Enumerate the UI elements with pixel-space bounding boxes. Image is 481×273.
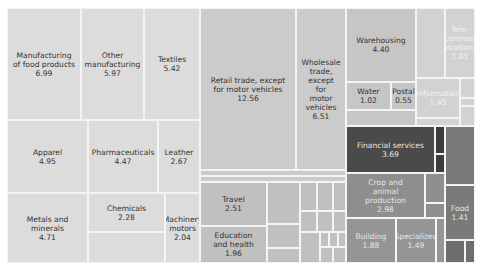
treemap-cell-crop: Crop and animal production2.98: [346, 173, 425, 218]
cell-value: 6.99: [36, 69, 53, 78]
cell-value: 5.97: [104, 69, 121, 78]
cell-label: Travel: [222, 195, 245, 204]
treemap-cell-info-small-3: [460, 106, 475, 126]
treemap-cell-transport-strip: [346, 110, 416, 126]
cell-value: 1.41: [452, 213, 469, 222]
cell-value: 2.04: [174, 233, 191, 242]
treemap-cell-svc-1: [267, 182, 300, 224]
cell-label: Building: [356, 232, 387, 241]
cell-label: Retail trade, except for motor vehicles: [211, 76, 286, 94]
treemap-cell-info-small-2: [460, 98, 475, 106]
cell-value: 2.67: [171, 157, 188, 166]
cell-label: Food: [451, 204, 469, 213]
cell-value: 2.51: [225, 204, 242, 213]
cell-label: Metals and minerals: [27, 215, 69, 233]
treemap-cell-svc-12: [329, 232, 338, 247]
treemap-cell-svc-4: [300, 182, 317, 211]
treemap-cell-mfg-unlabeled-1: [88, 232, 165, 263]
treemap-cell-svc-8: [317, 211, 333, 232]
cell-value: 6.51: [313, 112, 330, 121]
treemap-cell-metals: Metals and minerals4.71: [7, 193, 88, 263]
cell-label: Crop and animal production: [365, 178, 406, 205]
treemap-cell-retail: Retail trade, except for motor vehicles1…: [200, 8, 296, 170]
treemap-cell-warehousing: Warehousing4.40: [346, 8, 416, 82]
cell-label: Leather: [164, 148, 193, 157]
cell-value: 1.81: [452, 52, 469, 61]
cell-value: 1.02: [360, 96, 377, 105]
treemap-cell-financial: Financial services3.69: [346, 126, 435, 173]
cell-value: 5.42: [164, 64, 181, 73]
cell-value: 2.28: [118, 213, 135, 222]
cell-value: 1.49: [408, 241, 425, 250]
cell-value: 2.98: [377, 205, 394, 214]
treemap-cell-info-strip: [416, 118, 460, 126]
cell-label: Textiles: [158, 55, 186, 64]
treemap-cell-information: Information1.45: [416, 78, 460, 118]
treemap-cell-agri-small-2: [425, 203, 445, 218]
cell-value: 3.69: [382, 150, 399, 159]
cell-label: Specialized: [396, 232, 436, 241]
treemap-cell-leather: Leather2.67: [158, 120, 200, 193]
treemap-cell-info-small-1: [460, 78, 475, 98]
cell-label: Pharmaceuticals: [92, 148, 155, 157]
treemap-cell-svc-14: [320, 247, 333, 263]
treemap-cell-food: Food1.41: [445, 185, 475, 240]
treemap-cell-travel: Travel2.51: [200, 182, 267, 226]
cell-value: 1.45: [430, 98, 447, 107]
cell-label: Financial services: [357, 141, 424, 150]
cell-value: 4.47: [115, 157, 132, 166]
cell-value: 1.96: [225, 249, 242, 258]
treemap-cell-telecom: Tele- commu- nications1.81: [445, 8, 475, 78]
treemap-cell-agri-small-1: [425, 173, 445, 203]
treemap-cell-food-small-2: [465, 240, 475, 263]
cell-label: Tele- commu- nications: [445, 25, 475, 52]
treemap-cell-fin-small-2: [435, 154, 445, 173]
cell-label: Warehousing: [356, 36, 405, 45]
treemap-cell-svc-13: [338, 232, 346, 247]
treemap-cell-svc-11: [320, 232, 329, 247]
treemap-cell-wholesale: Wholesale trade, except for motor vehicl…: [296, 8, 346, 170]
treemap-cell-svc-6: [333, 182, 346, 211]
cell-label: Water: [357, 87, 379, 96]
cell-value: 4.95: [39, 157, 56, 166]
treemap-cell-svc-15: [333, 247, 346, 263]
cell-label: Apparel: [33, 148, 62, 157]
cell-label: Other manufacturing: [85, 51, 141, 69]
treemap-cell-fin-right: [445, 126, 475, 185]
treemap-cell-food-small-1: [445, 240, 465, 263]
treemap-cell-svc-3: [267, 248, 300, 263]
treemap-cell-fin-small-1: [435, 126, 445, 154]
treemap-cell-svc-2: [267, 224, 300, 248]
cell-value: 12.56: [237, 94, 259, 103]
treemap-cell-apparel: Apparel4.95: [7, 120, 88, 193]
cell-label: Postal: [392, 87, 415, 96]
treemap-cell-education: Education and health1.96: [200, 226, 267, 263]
treemap-cell-pharma: Pharmaceuticals4.47: [88, 120, 158, 193]
cell-value: 4.71: [39, 233, 56, 242]
treemap-cell-constr-small: [436, 218, 445, 263]
treemap-cell-svc-7: [300, 211, 317, 232]
treemap-chart: Manufacturing of food products6.99Other …: [0, 0, 481, 273]
treemap-cell-svc-9: [333, 211, 346, 232]
treemap-cell-building: Building1.88: [346, 218, 396, 263]
treemap-cell-textiles: Textiles5.42: [144, 8, 200, 120]
cell-label: Machinery motors: [165, 215, 200, 233]
cell-label: Wholesale trade, except for motor vehicl…: [301, 58, 340, 112]
cell-label: Chemicals: [107, 204, 146, 213]
treemap-cell-other-mfg: Other manufacturing5.97: [81, 8, 144, 120]
treemap-cell-machinery: Machinery motors2.04: [165, 193, 200, 263]
cell-value: 4.40: [373, 45, 390, 54]
treemap-cell-food-mfg: Manufacturing of food products6.99: [7, 8, 81, 120]
cell-value: 0.55: [395, 96, 412, 105]
treemap-cell-water: Water1.02: [346, 82, 391, 110]
treemap-cell-chemicals: Chemicals2.28: [88, 193, 165, 232]
cell-label: Manufacturing of food products: [13, 51, 75, 69]
cell-value: 1.88: [363, 241, 380, 250]
treemap-cell-svc-5: [317, 182, 333, 211]
treemap-cell-postal: Postal0.55: [391, 82, 416, 110]
cell-label: Education and health: [213, 231, 254, 249]
treemap-cell-info-unlabeled: [416, 8, 445, 78]
cell-label: Information: [416, 89, 460, 98]
treemap-cell-specialized: Specialized1.49: [396, 218, 436, 263]
treemap-cell-svc-10: [300, 232, 320, 263]
